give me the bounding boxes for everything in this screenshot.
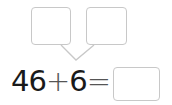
equals-sign: = — [87, 64, 110, 98]
plus-sign: + — [46, 64, 69, 98]
equation: 46+6= — [11, 64, 110, 98]
operand-b: 6 — [69, 64, 86, 98]
answer-box[interactable] — [113, 67, 160, 101]
operand-a: 46 — [11, 64, 46, 98]
